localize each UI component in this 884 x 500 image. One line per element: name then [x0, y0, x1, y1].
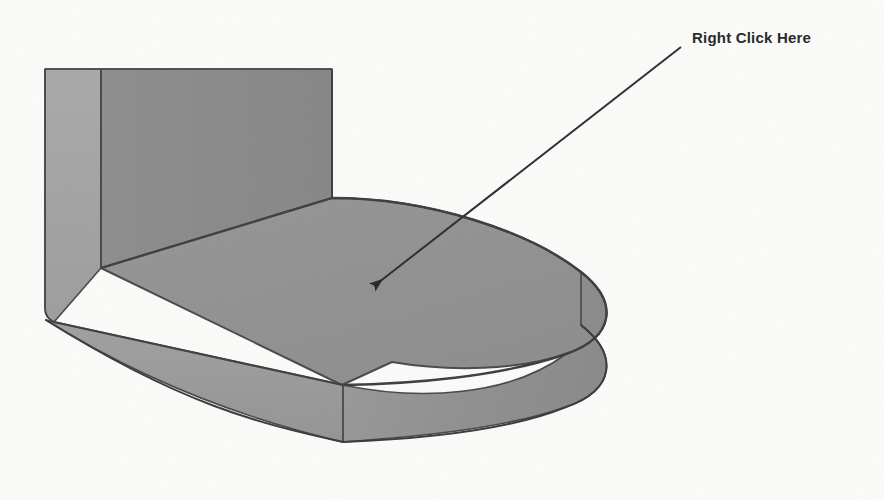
- annotation-label: Right Click Here: [692, 28, 811, 48]
- model-face-left-side[interactable]: [45, 69, 101, 322]
- cad-viewport[interactable]: Right Click Here: [0, 0, 884, 500]
- model-canvas[interactable]: [0, 0, 884, 500]
